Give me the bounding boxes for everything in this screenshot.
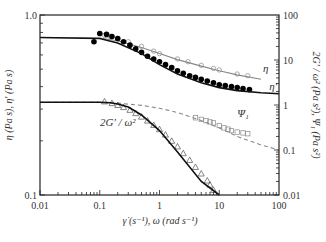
series-annotation: η bbox=[263, 62, 268, 74]
plot-area: ηη′Ψ₁2G′ / ω² bbox=[40, 31, 279, 195]
x-tick-label: 1 bbox=[157, 200, 162, 211]
data-point bbox=[241, 131, 245, 135]
data-point bbox=[198, 76, 204, 82]
series-annotation: Ψ₁ bbox=[237, 107, 249, 119]
y-left-tick-label: 0.1 bbox=[25, 190, 38, 201]
data-point bbox=[115, 36, 121, 42]
data-point bbox=[192, 164, 198, 170]
data-point bbox=[204, 78, 210, 84]
x-tick-label: 100 bbox=[272, 200, 287, 211]
x-tick-label: 10 bbox=[214, 200, 224, 211]
y-right-tick-label: 100 bbox=[283, 10, 298, 21]
y-right-tick-label: 0.01 bbox=[283, 190, 301, 201]
series-η′ bbox=[40, 31, 279, 94]
y-left-tick-label: 1.0 bbox=[25, 10, 38, 21]
data-point bbox=[246, 132, 250, 136]
x-tick-label: 0.01 bbox=[31, 200, 49, 211]
axes: 0.010.11101000.11.00.010.1110100 bbox=[25, 10, 301, 212]
x-tick-label: 0.1 bbox=[94, 200, 107, 211]
data-point bbox=[174, 143, 180, 149]
series-annotation: 2G′ / ω² bbox=[100, 116, 136, 128]
y-right-tick-label: 0.1 bbox=[283, 145, 296, 156]
y-right-tick-label: 1 bbox=[283, 100, 288, 111]
x-axis-title: γ̇ (s⁻¹), ω (rad s⁻¹) bbox=[122, 215, 198, 227]
data-point bbox=[187, 157, 193, 163]
series-η bbox=[40, 33, 261, 79]
data-point bbox=[104, 32, 110, 38]
y-right-tick-label: 10 bbox=[283, 55, 293, 66]
data-point bbox=[121, 39, 127, 45]
data-point bbox=[198, 171, 204, 177]
series-annotation: η′ bbox=[269, 80, 277, 92]
y-axis-left-title: η (Pa s), η′ (Pa s) bbox=[3, 69, 15, 140]
data-point bbox=[109, 34, 115, 40]
rheology-chart: ηη′Ψ₁2G′ / ω² 0.010.11101000.11.00.010.1… bbox=[0, 0, 326, 242]
series-2G′/ω² bbox=[40, 98, 219, 195]
data-point bbox=[235, 130, 239, 134]
model-line bbox=[40, 38, 279, 94]
plot-frame bbox=[40, 15, 279, 195]
data-point bbox=[217, 123, 221, 127]
y-axis-right-title: 2G′ / ω² (Pa s²), Ψ₁ (Pa s²) bbox=[310, 51, 322, 159]
data-point bbox=[180, 150, 186, 156]
data-point bbox=[97, 31, 103, 37]
data-point bbox=[91, 39, 97, 45]
